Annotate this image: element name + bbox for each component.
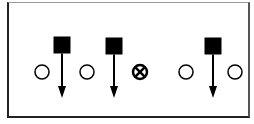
open-circle-icon	[80, 65, 94, 79]
arrow-down-icon	[209, 86, 217, 98]
open-circle-icon	[35, 65, 49, 79]
diagram-canvas	[0, 0, 254, 124]
open-circle-icon	[179, 65, 193, 79]
player-square-icon	[205, 38, 222, 55]
open-circle-icon	[228, 65, 242, 79]
arrow-down-icon	[110, 86, 118, 98]
arrow-down-icon	[58, 86, 66, 98]
player-square-icon	[106, 38, 123, 55]
player-square-icon	[54, 37, 71, 54]
